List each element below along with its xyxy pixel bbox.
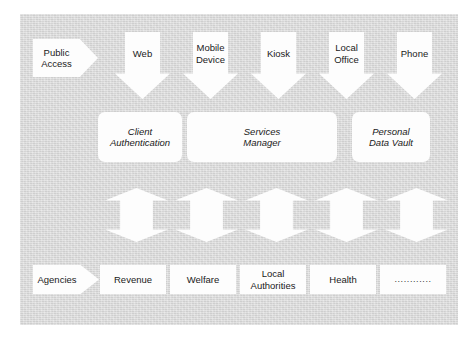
channel-label-mobile-device: Mobile Device (196, 42, 225, 64)
agency-label-additional: ............ (394, 274, 431, 285)
channel-label-phone: Phone (401, 48, 428, 59)
agency-label-welfare: Welfare (187, 274, 220, 285)
public-access-label: Public Access (41, 47, 72, 69)
diagram-canvas: Public Access Web Mobile Device Kiosk Lo… (20, 14, 458, 325)
bidirectional-connector-arrow-3 (245, 188, 308, 242)
agency-label-local-authorities: Local Authorities (251, 268, 296, 290)
service-node-client-authentication: Client Authentication (98, 112, 182, 162)
service-node-personal-data-vault: Personal Data Vault (352, 112, 430, 162)
agency-label-health: Health (329, 274, 356, 285)
service-label-personal-data-vault: Personal Data Vault (369, 126, 413, 148)
service-label-services-manager: Services Manager (243, 126, 281, 148)
channel-node-phone: Phone (387, 32, 442, 99)
channel-node-kiosk: Kiosk (251, 32, 306, 99)
agency-node-local-authorities: Local Authorities (240, 265, 306, 294)
bidirectional-connector-arrow-2 (175, 188, 238, 242)
service-label-client-authentication: Client Authentication (110, 126, 170, 148)
agencies-entry-arrow: Agencies (33, 265, 99, 294)
agency-node-revenue: Revenue (100, 265, 166, 294)
channel-label-web: Web (133, 48, 152, 59)
bidirectional-connector-arrow-5 (385, 188, 448, 242)
agency-label-revenue: Revenue (114, 274, 152, 285)
bidirectional-connector-arrow-1 (105, 188, 168, 242)
agencies-label: Agencies (37, 274, 76, 285)
bidirectional-connector-arrow-4 (315, 188, 378, 242)
public-access-entry-arrow: Public Access (33, 39, 98, 77)
channel-node-local-office: Local Office (319, 32, 374, 99)
channel-node-web: Web (115, 32, 170, 99)
agency-node-additional: ............ (380, 265, 446, 294)
channel-label-local-office: Local Office (334, 42, 359, 64)
agency-node-welfare: Welfare (170, 265, 236, 294)
channel-label-kiosk: Kiosk (267, 48, 290, 59)
service-node-services-manager: Services Manager (187, 112, 337, 162)
channel-node-mobile-device: Mobile Device (183, 32, 238, 99)
agency-node-health: Health (310, 265, 376, 294)
